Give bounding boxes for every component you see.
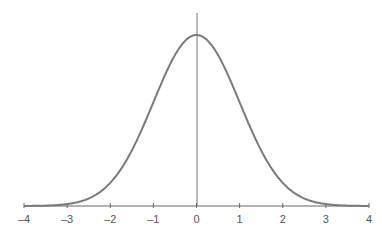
x-tick-label: 1: [237, 213, 243, 225]
x-tick-label: 0: [193, 213, 199, 225]
x-tick-label: –2: [104, 213, 116, 225]
x-axis-tick-labels: –4–3–2–101234: [18, 213, 372, 225]
x-tick-label: –1: [147, 213, 159, 225]
x-tick-label: –4: [18, 213, 30, 225]
x-tick-label: 3: [323, 213, 329, 225]
x-tick-label: –3: [61, 213, 73, 225]
x-tick-label: 4: [366, 213, 372, 225]
x-tick-label: 2: [280, 213, 286, 225]
bell-curve-chart: –4–3–2–101234: [0, 0, 382, 235]
